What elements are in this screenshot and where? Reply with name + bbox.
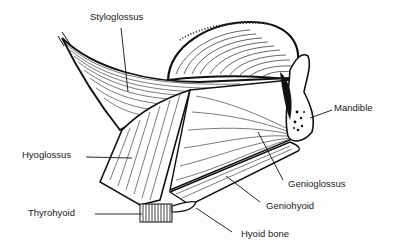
- label-genioglossus: Genioglossus: [288, 179, 346, 189]
- tongue-dorsum: [168, 22, 298, 80]
- label-styloglossus: Styloglossus: [90, 12, 143, 22]
- anatomy-diagram: Styloglossus Mandible Hyoglossus Geniogl…: [0, 0, 394, 249]
- label-hyoglossus: Hyoglossus: [22, 150, 71, 160]
- label-thyrohyoid: Thyrohyoid: [28, 208, 75, 218]
- label-geniohyoid: Geniohyoid: [266, 201, 314, 211]
- hyoid-bone: [172, 201, 196, 212]
- label-mandible: Mandible: [334, 103, 373, 113]
- label-hyoid-bone: Hyoid bone: [241, 229, 289, 239]
- thyrohyoid-muscle: [140, 204, 172, 222]
